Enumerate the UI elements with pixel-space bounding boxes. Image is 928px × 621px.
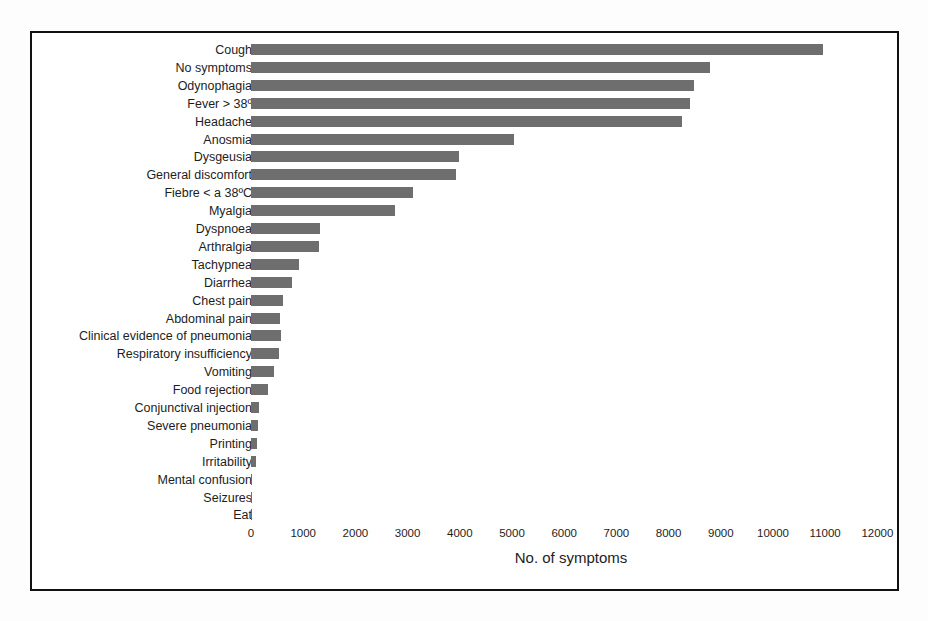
category-label: Tachypnea: [22, 256, 252, 274]
category-label: Arthralgia: [22, 238, 252, 256]
bar-track: [251, 435, 891, 453]
bar: [251, 259, 299, 270]
x-tick-label: 2000: [343, 525, 369, 541]
bar: [251, 98, 690, 109]
chart-row: Chest pain: [32, 292, 901, 310]
category-label: Mental confusion: [22, 471, 252, 489]
chart-row: Fiebre < a 38ºC: [32, 184, 901, 202]
chart-row: No symptoms: [32, 59, 901, 77]
bar-track: [251, 363, 891, 381]
bar: [251, 134, 514, 145]
bar-track: [251, 310, 891, 328]
chart-row: Food rejection: [32, 381, 901, 399]
bar-track: [251, 327, 891, 345]
chart-row: Fever > 38º: [32, 95, 901, 113]
bar-track: [251, 131, 891, 149]
category-label: Printing: [22, 435, 252, 453]
bar: [251, 509, 252, 520]
chart-row: Odynophagia: [32, 77, 901, 95]
bar: [251, 492, 252, 503]
bar-track: [251, 381, 891, 399]
bar: [251, 80, 694, 91]
chart-row: Seizures: [32, 489, 901, 507]
bar-track: [251, 417, 891, 435]
bar-track: [251, 256, 891, 274]
chart-row: Irritability: [32, 453, 901, 471]
category-label: Odynophagia: [22, 77, 252, 95]
chart-row: General discomfort: [32, 166, 901, 184]
category-label: Diarrhea: [22, 274, 252, 292]
x-tick-label: 8000: [656, 525, 682, 541]
bar-track: [251, 95, 891, 113]
category-label: Seizures: [22, 489, 252, 507]
x-tick-label: 7000: [604, 525, 630, 541]
category-label: Food rejection: [22, 381, 252, 399]
x-tick-label: 1000: [290, 525, 316, 541]
bar: [251, 366, 274, 377]
category-label: No symptoms: [22, 59, 252, 77]
bar-track: [251, 453, 891, 471]
category-label: Dyspnoea: [22, 220, 252, 238]
bar: [251, 402, 259, 413]
x-tick-label: 4000: [447, 525, 473, 541]
chart-row: Dyspnoea: [32, 220, 901, 238]
category-label: General discomfort: [22, 166, 252, 184]
chart-row: Printing: [32, 435, 901, 453]
category-label: Headache: [22, 113, 252, 131]
bar-track: [251, 399, 891, 417]
bar-track: [251, 506, 891, 524]
x-tick-label: 5000: [499, 525, 525, 541]
bar-track: [251, 59, 891, 77]
bar-track: [251, 292, 891, 310]
bar: [251, 223, 320, 234]
bar-track: [251, 489, 891, 507]
category-label: Severe pneumonia: [22, 417, 252, 435]
scan-artifact: [0, 0, 928, 31]
chart-row: Respiratory insufficiency: [32, 345, 901, 363]
bar: [251, 169, 456, 180]
bar-track: [251, 471, 891, 489]
chart-row: Myalgia: [32, 202, 901, 220]
chart-row: Headache: [32, 113, 901, 131]
x-axis-ticks: 0100020003000400050006000700080009000100…: [32, 525, 901, 549]
category-label: Vomiting: [22, 363, 252, 381]
category-label: Chest pain: [22, 292, 252, 310]
bar: [251, 187, 413, 198]
category-label: Cough: [22, 41, 252, 59]
category-label: Abdominal pain: [22, 310, 252, 328]
bar: [251, 295, 283, 306]
x-tick-label: 12000: [861, 525, 893, 541]
chart-row: Severe pneumonia: [32, 417, 901, 435]
bar: [251, 438, 257, 449]
bar-track: [251, 345, 891, 363]
figure-frame: CoughNo symptomsOdynophagiaFever > 38ºHe…: [30, 31, 899, 591]
bar-track: [251, 113, 891, 131]
bar: [251, 277, 292, 288]
chart-row: Conjunctival injection: [32, 399, 901, 417]
bar: [251, 420, 258, 431]
category-label: Eat: [22, 506, 252, 524]
x-axis-title: No. of symptoms: [251, 549, 891, 566]
bar: [251, 313, 280, 324]
chart-row: Cough: [32, 41, 901, 59]
bar-track: [251, 148, 891, 166]
chart-row: Vomiting: [32, 363, 901, 381]
chart-row: Abdominal pain: [32, 310, 901, 328]
category-label: Respiratory insufficiency: [22, 345, 252, 363]
bar-track: [251, 77, 891, 95]
category-label: Clinical evidence of pneumonia: [22, 327, 252, 345]
chart-row: Clinical evidence of pneumonia: [32, 327, 901, 345]
x-tick-label: 9000: [708, 525, 734, 541]
bar: [251, 456, 256, 467]
chart-row: Eat: [32, 506, 901, 524]
bar: [251, 62, 710, 73]
category-label: Dysgeusia: [22, 148, 252, 166]
x-tick-label: 10000: [757, 525, 789, 541]
bar-track: [251, 41, 891, 59]
bar: [251, 384, 268, 395]
category-label: Irritability: [22, 453, 252, 471]
bar-track: [251, 274, 891, 292]
chart-row: Arthralgia: [32, 238, 901, 256]
x-tick-label: 0: [248, 525, 254, 541]
bar: [251, 474, 252, 485]
